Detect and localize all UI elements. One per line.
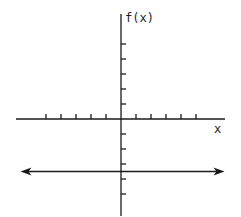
y-axis-label: f(x) — [125, 11, 154, 25]
graph — [0, 0, 241, 217]
x-axis-label: x — [214, 122, 221, 136]
function-line — [21, 168, 225, 176]
